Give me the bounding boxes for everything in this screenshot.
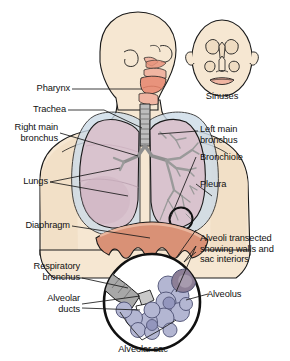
label-alveoli-transected: Alveoli transected showing walls and sac…	[200, 233, 290, 265]
label-alveolus: Alveolus	[207, 289, 287, 300]
label-pleura: Pleura	[200, 179, 288, 190]
label-pharynx: Pharynx	[0, 83, 70, 94]
label-bronchiole: Bronchiole	[200, 152, 288, 163]
label-respiratory-bronchus: Respiratory bronchus	[0, 261, 80, 282]
label-trachea: Trachea	[0, 104, 66, 115]
lung-right	[78, 120, 140, 228]
lung-left	[150, 119, 205, 228]
label-alveolar-sac: Alveolar sac	[102, 344, 184, 355]
head-frontal	[186, 20, 259, 96]
label-left-main-bronchus: Left main bronchus	[200, 124, 288, 145]
label-diaphragm: Diaphragm	[0, 220, 70, 231]
label-lungs: Lungs	[0, 176, 48, 187]
head-profile	[100, 12, 176, 110]
diagram-canvas: Pharynx Trachea Right main bronchus Lung…	[0, 0, 290, 361]
trachea	[140, 104, 150, 146]
label-sinuses: Sinuses	[192, 91, 252, 102]
label-right-main-bronchus: Right main bronchus	[0, 122, 58, 143]
label-alveolar-ducts: Alveolar ducts	[0, 293, 80, 314]
